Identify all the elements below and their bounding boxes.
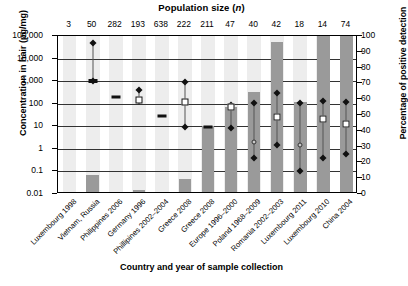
y-axis-right-tick-label: 70 [361, 77, 391, 87]
y-axis-right-tick-mark [357, 82, 362, 83]
population-size-value: 14 [318, 19, 327, 29]
marker-median-box [320, 116, 327, 123]
population-size-value: 18 [295, 19, 304, 29]
top-axis-title: Population size (n) [0, 2, 403, 13]
population-size-value: 3 [66, 19, 71, 29]
marker-median-box [228, 104, 235, 111]
y-axis-left-tick-label: 100 [0, 98, 43, 108]
y-axis-right-tick-mark [357, 130, 362, 131]
y-axis-right-tick-label: 80 [361, 62, 391, 72]
marker-median-dash [204, 126, 213, 129]
gridline [58, 104, 356, 105]
population-size-value: 42 [271, 19, 280, 29]
marker-median-box [181, 98, 188, 105]
population-size-value: 40 [248, 19, 257, 29]
population-size-value: 222 [177, 19, 191, 29]
whisker-line [92, 43, 93, 81]
population-size-value: 47 [225, 19, 234, 29]
population-size-value: 638 [154, 19, 168, 29]
population-size-value: 50 [87, 19, 96, 29]
y-axis-left-tick-label: 100,000 [0, 30, 43, 40]
marker-median-dash [111, 95, 120, 98]
marker-median-dash [157, 114, 166, 117]
y-axis-left-tick-label: 10,000 [0, 53, 43, 63]
y-axis-right-tick-label: 60 [361, 93, 391, 103]
y-axis-right-title: Percentage of positive detection [398, 0, 408, 158]
y-axis-left-tick-label: 0.01 [0, 188, 43, 198]
y-axis-right-tick-label: 100 [361, 30, 391, 40]
marker-median-bar [88, 79, 97, 83]
x-axis-title: Country and year of sample collection [0, 262, 403, 272]
y-axis-right-tick-mark [357, 67, 362, 68]
y-axis-right-tick-mark [357, 51, 362, 52]
y-axis-left-tick-label: 1,000 [0, 75, 43, 85]
y-axis-left-tick-label: 1 [0, 143, 43, 153]
population-size-value: 211 [200, 19, 214, 29]
y-axis-right-tick-mark [357, 98, 362, 99]
y-axis-right-tick-label: 30 [361, 141, 391, 151]
y-axis-right-tick-label: 90 [361, 46, 391, 56]
marker-median-box [135, 96, 142, 103]
whisker-line [323, 101, 324, 158]
y-axis-right-tick-mark [357, 146, 362, 147]
marker-median-circle [252, 140, 257, 145]
y-axis-right-tick-label: 50 [361, 109, 391, 119]
gridline [58, 81, 356, 82]
population-size-value: 193 [131, 19, 145, 29]
whisker-line [254, 103, 255, 158]
marker-median-circle [298, 142, 303, 147]
y-axis-left-tick-mark [52, 193, 57, 194]
marker-median-box [343, 121, 350, 128]
y-axis-right-tick-mark [357, 114, 362, 115]
y-axis-left-tick-label: 0.1 [0, 165, 43, 175]
population-size-value: 74 [341, 19, 350, 29]
top-axis-title-text: Population size ( [158, 2, 235, 13]
population-size-value: 282 [108, 19, 122, 29]
y-axis-right-tick-mark [357, 35, 362, 36]
y-axis-right-tick-label: 40 [361, 125, 391, 135]
marker-median-box [274, 114, 281, 121]
top-axis-title-close: ) [241, 2, 244, 13]
y-axis-right-tick-mark [357, 177, 362, 178]
gridline [58, 59, 356, 60]
y-axis-left-tick-label: 10 [0, 120, 43, 130]
